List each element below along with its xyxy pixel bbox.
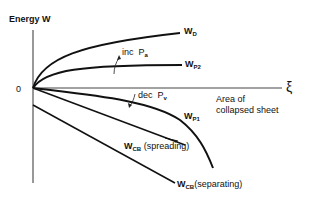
label-w-p2: WP2 bbox=[185, 59, 201, 72]
origin-label: 0 bbox=[16, 84, 21, 94]
arrow-dec-pv bbox=[130, 94, 135, 106]
x-axis-label-line1: Area of bbox=[216, 94, 245, 104]
xi-symbol: ξ bbox=[286, 80, 292, 94]
y-axis-label: Energy W bbox=[9, 14, 51, 24]
annotation-inc-pa: inc Pa bbox=[122, 47, 148, 60]
label-w-cb-separating: WCB(separating) bbox=[177, 179, 242, 192]
curve-w-p2 bbox=[33, 65, 182, 88]
arrowhead-inc-pa bbox=[117, 55, 121, 60]
x-axis-label-line2: collapsed sheet bbox=[216, 105, 279, 115]
label-w-d: WD bbox=[184, 26, 197, 39]
label-w-p1: WP1 bbox=[184, 111, 200, 124]
label-w-cb-spreading: WCB (spreading) bbox=[124, 141, 189, 154]
curve-w-d bbox=[33, 33, 180, 88]
annotation-dec-pv: dec Pv bbox=[138, 90, 167, 103]
curve-w-p1 bbox=[33, 88, 213, 168]
